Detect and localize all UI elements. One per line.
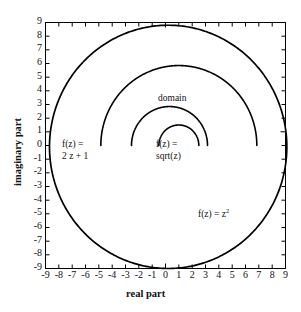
y-tick-label: -5 xyxy=(22,207,42,218)
x-tick-label: 9 xyxy=(276,270,296,281)
y-tick-label: 9 xyxy=(22,16,42,27)
y-axis-title: imaginary part xyxy=(12,118,23,186)
annotation-z-squared-base: f(z) = z xyxy=(198,209,226,219)
y-tick-label: -1 xyxy=(22,153,42,164)
y-tick-label: 5 xyxy=(22,71,42,82)
y-tick-label: -7 xyxy=(22,235,42,246)
annotation-domain: domain xyxy=(158,94,187,104)
annotation-z-squared: f(z) = z2 xyxy=(198,210,229,220)
y-tick-label: 4 xyxy=(22,84,42,95)
y-tick-label: -6 xyxy=(22,221,42,232)
x-axis-title: real part xyxy=(126,288,165,299)
y-tick-label: 3 xyxy=(22,98,42,109)
y-tick-label: -2 xyxy=(22,166,42,177)
y-axis-ticks-right xyxy=(281,36,286,255)
y-tick-label: -4 xyxy=(22,194,42,205)
y-tick-label: 7 xyxy=(22,43,42,54)
annotation-2z-plus-1-line1: f(z) = xyxy=(62,140,83,150)
annotation-2z-plus-1-line2: 2 z + 1 xyxy=(62,152,88,162)
y-tick-label: -9 xyxy=(22,262,42,273)
y-tick-label: -8 xyxy=(22,248,42,259)
plot-svg xyxy=(0,0,301,312)
y-tick-label: -3 xyxy=(22,180,42,191)
annotation-sqrt-line1: f(z) = xyxy=(156,140,177,150)
y-tick-label: 6 xyxy=(22,57,42,68)
y-tick-label: 0 xyxy=(22,139,42,150)
annotation-z-squared-exponent: 2 xyxy=(226,207,229,214)
y-tick-label: 8 xyxy=(22,30,42,41)
figure-canvas: -9 -8 -7 -6 -5 -4 -3 -2 -1 0 1 2 3 4 5 6… xyxy=(0,0,301,312)
curve-f-z-2-z-1 xyxy=(101,66,257,146)
y-tick-label: 2 xyxy=(22,112,42,123)
annotation-sqrt-line2: sqrt(z) xyxy=(156,152,181,162)
y-tick-label: 1 xyxy=(22,125,42,136)
